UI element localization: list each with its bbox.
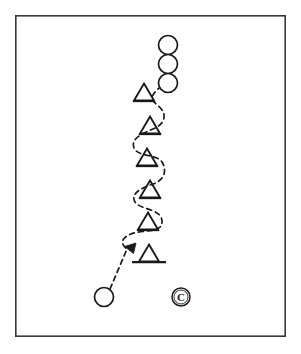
copyright-mark: C bbox=[172, 288, 190, 306]
diagram-canvas: C Slalom dribbling drill diagram player … bbox=[0, 0, 301, 354]
player-circle-queue-3 bbox=[159, 74, 178, 93]
drill-diagram: C bbox=[0, 0, 301, 354]
player-circle-queue-2 bbox=[159, 55, 178, 74]
copyright-glyph: C bbox=[177, 291, 185, 303]
field-boundary bbox=[16, 16, 285, 336]
player-circle-start bbox=[95, 288, 114, 307]
player-circle-queue-1 bbox=[159, 36, 178, 55]
